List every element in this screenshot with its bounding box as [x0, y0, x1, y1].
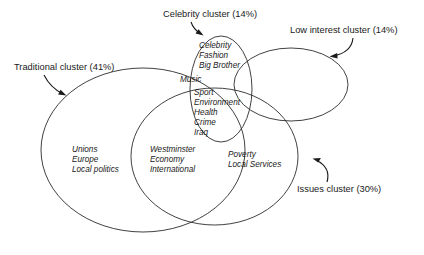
- region-celebrity-only: Celebrity Fashion Big Brother: [199, 41, 240, 70]
- region-issues-only: Poverty Local Services: [228, 150, 281, 169]
- region-traditional-only: Unions Europe Local politics: [72, 145, 119, 174]
- topic-environment: Environment: [194, 98, 241, 107]
- callout-label-low-interest: Low interest cluster (14%): [290, 25, 397, 35]
- topic-economy: Economy: [150, 155, 185, 164]
- topic-poverty: Poverty: [228, 150, 257, 159]
- topic-international: International: [150, 165, 195, 174]
- topic-sport: Sport: [194, 88, 214, 97]
- topic-local-politics: Local politics: [72, 165, 119, 174]
- callout-label-issues: Issues cluster (30%): [297, 184, 381, 194]
- callout-arrow-issues: [313, 158, 328, 182]
- topic-music: Music: [180, 75, 201, 84]
- topic-celebrity: Celebrity: [199, 41, 232, 50]
- ellipse-low-interest-cluster[interactable]: [234, 48, 348, 121]
- callout-arrow-celebrity: [191, 22, 204, 36]
- topic-big-brother: Big Brother: [199, 61, 240, 70]
- topic-crime: Crime: [194, 118, 216, 127]
- region-music-band: Music: [180, 75, 201, 84]
- region-traditional-issues: Westminster Economy International: [150, 145, 196, 174]
- topic-health: Health: [194, 108, 218, 117]
- callout-arrow-low-interest: [330, 38, 354, 58]
- topic-local-services: Local Services: [228, 160, 281, 169]
- callout-label-celebrity: Celebrity cluster (14%): [163, 9, 257, 19]
- topic-europe: Europe: [72, 155, 99, 164]
- topic-fashion: Fashion: [199, 51, 229, 60]
- topic-westminster: Westminster: [150, 145, 196, 154]
- topic-iraq: Iraq: [194, 128, 209, 137]
- venn-canvas: Celebrity cluster (14%) Low interest clu…: [0, 0, 424, 255]
- venn-diagram: Celebrity cluster (14%) Low interest clu…: [0, 0, 424, 255]
- callout-arrow-traditional: [44, 75, 66, 96]
- callout-label-traditional: Traditional cluster (41%): [14, 62, 114, 72]
- topic-unions: Unions: [72, 145, 98, 154]
